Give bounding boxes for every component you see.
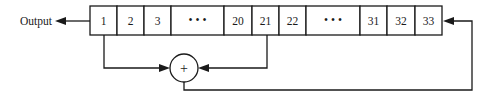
tap-line-cell-1	[104, 35, 162, 68]
cell-label: 2	[128, 15, 134, 27]
tap-arrow-icon	[159, 64, 170, 72]
output-arrow-icon	[55, 17, 66, 25]
register-cell: 2	[117, 6, 144, 35]
cell-label: 33	[423, 15, 435, 27]
feedback-arrow-icon	[443, 17, 454, 25]
ellipsis-label: • • •	[189, 14, 207, 26]
ellipsis-label: • • •	[324, 14, 342, 26]
register-cell: 22	[279, 6, 306, 35]
register-cell: 20	[224, 6, 252, 35]
register-cell: 33	[415, 6, 442, 35]
cell-label: 21	[260, 15, 272, 27]
register-cell: 32	[387, 6, 415, 35]
tap-arrow-icon	[198, 64, 209, 72]
register-cell: 31	[360, 6, 387, 35]
cell-label: 31	[368, 15, 380, 27]
register-cell-ellipsis: • • •	[171, 6, 224, 35]
register-cell: 21	[252, 6, 279, 35]
cell-label: 22	[287, 15, 299, 27]
output-label: Output	[20, 15, 53, 28]
cell-label: 20	[232, 15, 244, 27]
tap-line-cell-21	[206, 35, 267, 68]
lfsr-diagram: Output 1 2 3 • • • 20 21 22	[0, 0, 490, 96]
adder-node: +	[170, 54, 198, 82]
register-cell-ellipsis: • • •	[306, 6, 360, 35]
cell-label: 3	[155, 15, 161, 27]
register: 1 2 3 • • • 20 21 22 • • •	[90, 6, 442, 35]
register-cell: 3	[144, 6, 171, 35]
cell-label: 1	[101, 15, 107, 27]
register-cell: 1	[90, 6, 117, 35]
cell-label: 32	[395, 15, 407, 27]
adder-symbol: +	[180, 61, 188, 76]
